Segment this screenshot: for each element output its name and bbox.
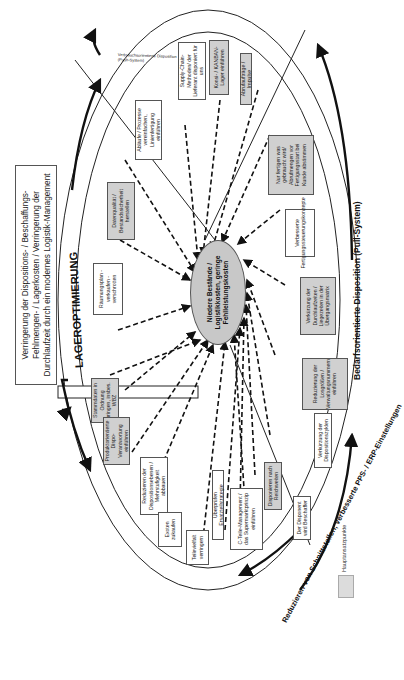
box-teilevielfalt: Teilevielfalt verringern	[186, 530, 209, 565]
box-konsi-kanban: Konsi- / KANBAN-Lager einführen	[209, 40, 229, 95]
legend-swatch	[338, 575, 354, 598]
box-abrufauftraege: Abrufaufträge / Impulse	[240, 53, 252, 105]
box-disponent-beschaffer: Der Disponent wird Beschaffer	[293, 496, 311, 540]
box-c-teile-management: C-Teile-Management / das Supermarktprinz…	[230, 488, 263, 550]
box-disponieren-reichweiten: Disponieren nach Reichweiten	[264, 462, 282, 510]
box-raeumungsplan: Räumungsplan - verkaufen - verschrotten	[93, 263, 123, 315]
box-nur-fertigen: Nur fertigen was gebraucht wird/ Abrufme…	[268, 135, 314, 195]
center-goal-ellipse: Niedere Bestände / Logistikkosten, gerin…	[190, 240, 246, 345]
box-exoten-zukaufen: Exoten zukaufen	[158, 512, 182, 547]
box-dispositionsebenen: Reduzieren der Dispositionsebenen / Mehr…	[140, 457, 168, 515]
label-push-system: Verbrauchsorientierte Disposition (Push-…	[118, 52, 177, 64]
box-reduzierung-losgroessen: Reduzierung der Losgrößen / Verwaltungsn…	[302, 358, 348, 410]
label-pull-system: Bedarfsorientierte Disposition (Pull-Sys…	[352, 201, 362, 380]
box-verkuerzung-durchlaufzeiten: Verkürzung der Durchlaufzeiten / Liegeze…	[300, 277, 336, 335]
box-verkuerzung-dispozyklen: Verkürzung der Dispositionszyklen	[314, 413, 332, 468]
box-ablaeufe: Abläufe / Prozesse vereinfachen, Linienf…	[135, 100, 162, 160]
box-ersatzteilstrategie: Überprüfen Ersatzteilstrategie	[212, 470, 224, 540]
box-supply-chain: Supply-Chain-Methoden/ der Lieferant dis…	[178, 42, 206, 100]
box-produktorientierte-dispo: Produktorientierte Dispo-Verantwortung e…	[103, 417, 130, 465]
legend-label: Hauptansatzpunkte	[341, 525, 347, 572]
box-verbesserte-fertigungssteuerung: Verbesserte Fertigungssteuerungskonzepte	[285, 209, 315, 257]
box-datenqualitaet: Datenqualität / Bestandssicherheit herst…	[107, 182, 135, 240]
goal-box: Verringerung der Dispositions- / Beschaf…	[15, 165, 57, 385]
